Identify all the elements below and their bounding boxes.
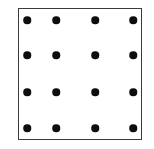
diagram-canvas xyxy=(0,0,154,149)
square-frame xyxy=(18,8,142,140)
